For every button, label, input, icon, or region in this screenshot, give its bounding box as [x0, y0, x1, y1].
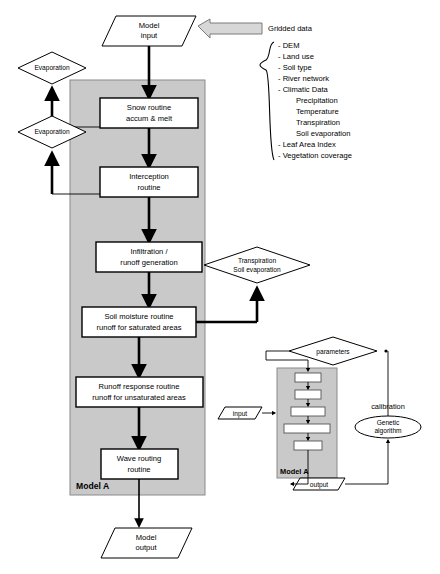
ga-line2: algorithm: [374, 427, 402, 435]
box-snow-line1: Snow routine: [127, 103, 171, 112]
gridded-data-arrow-icon: [198, 19, 262, 38]
calibration-model-a-panel: [277, 368, 337, 478]
box-wave-line2: routine: [127, 465, 150, 474]
model-a-panel: [70, 80, 205, 495]
box-infiltration-line2: runoff generation: [120, 258, 177, 267]
box-snow-line2: accum & melt: [126, 114, 173, 123]
calibration-model-a-label: Model A: [280, 467, 309, 476]
model-input-line1: Model: [139, 21, 160, 30]
climatic-sub-2: Transpiration: [296, 118, 340, 127]
gridded-data-brace: [260, 42, 274, 160]
box-soilmoisture-line1: Soil moisture routine: [104, 312, 173, 321]
gridded-item-1: - Land use: [278, 52, 314, 61]
box-runoff-line1: Runoff response routine: [99, 382, 180, 391]
box-interception-line2: routine: [137, 183, 160, 192]
mini-box-1: [295, 373, 321, 382]
mini-box-2: [295, 390, 321, 399]
transpiration-line2: Soil evaporation: [233, 266, 281, 274]
transpiration-line1: Transpiration: [238, 257, 277, 265]
gridded-item-6: - Vegetation coverage: [278, 151, 352, 160]
mini-box-4: [284, 424, 330, 433]
ga-line1: Genetic: [377, 419, 400, 426]
evaporation-1-label: Evaporation: [34, 64, 70, 72]
model-input-line2: input: [141, 31, 158, 40]
gridded-item-5: - Leaf Area Index: [278, 140, 336, 149]
transpiration-shape: [204, 247, 310, 283]
model-a-panel-label: Model A: [76, 481, 109, 491]
gridded-data-heading: Gridded data: [268, 24, 313, 33]
gridded-item-0: - DEM: [278, 41, 300, 50]
mini-box-3: [291, 407, 325, 416]
gridded-item-2: - Soil type: [278, 63, 312, 72]
climatic-sub-3: Soil evaporation: [296, 129, 350, 138]
model-output-line2: output: [135, 543, 157, 552]
calibration-input-label: input: [233, 410, 247, 418]
flowchart-canvas: Model A Model input Gridded data - DEM -…: [0, 0, 440, 574]
parameters-label: parameters: [316, 348, 350, 356]
box-interception-line1: Interception: [129, 172, 169, 181]
calibration-output-label: output: [310, 481, 329, 489]
model-output-line1: Model: [136, 533, 157, 542]
mini-box-5: [294, 441, 322, 450]
evaporation-2-label: Evaporation: [34, 128, 70, 136]
box-wave-line1: Wave routing: [117, 454, 161, 463]
gridded-item-3: - River network: [278, 74, 329, 83]
box-runoff-line2: runoff for unsaturated areas: [92, 393, 186, 402]
box-soilmoisture-line2: runoff for saturated areas: [96, 323, 181, 332]
edge-output-to-ga: [345, 440, 388, 484]
climatic-sub-0: Precipitation: [296, 96, 338, 105]
junction-dot-parameters: [384, 349, 387, 352]
box-infiltration-line1: Infiltration /: [130, 247, 168, 256]
climatic-sub-1: Temperature: [296, 107, 339, 116]
gridded-item-4: - Climatic Data: [278, 85, 329, 94]
